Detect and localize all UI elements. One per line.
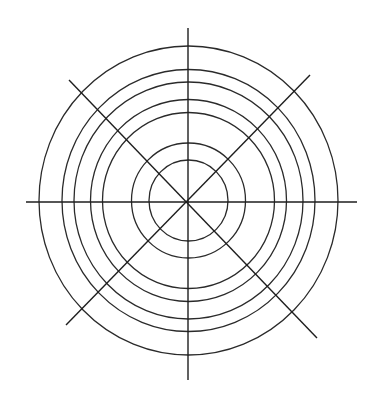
concentric-rings-diagram: [0, 0, 373, 405]
spokes-group: [26, 28, 357, 380]
